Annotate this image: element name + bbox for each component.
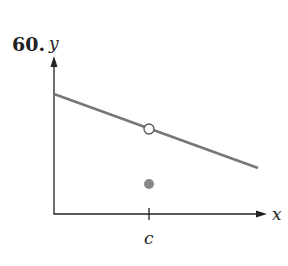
problem-number: 60. [12,33,45,55]
y-axis-arrow-icon [51,56,58,67]
y-axis [51,56,58,214]
x-axis-label: x [272,204,282,224]
filled-point-icon [144,179,154,189]
open-point-icon [144,124,154,134]
c-tick-label: c [144,228,154,248]
function-line [54,94,258,168]
graph-figure: 60. y x c [0,0,288,266]
x-axis-arrow-icon [256,211,267,218]
x-axis [54,211,268,218]
y-axis-label: y [48,33,59,53]
